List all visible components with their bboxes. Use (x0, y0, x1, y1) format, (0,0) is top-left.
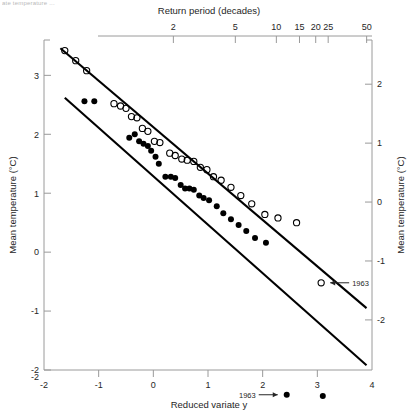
left-tick-label: 3 (34, 71, 39, 81)
data-point-open-circles (145, 128, 151, 134)
left-axis-origin-label: -2 (31, 372, 39, 382)
data-point-open-circles (293, 220, 299, 226)
top-axis-return-period: 251015202550 (98, 22, 372, 43)
partial-caption-fragment: ate temperature ... (2, 0, 152, 7)
annotation-label: 1963 (239, 391, 256, 400)
data-point-filled-circles (132, 131, 138, 137)
data-point-filled-circles (191, 187, 197, 193)
fit-line-open-circles (60, 48, 366, 308)
data-point-filled-circles (126, 135, 132, 141)
data-point-open-circles (318, 280, 324, 286)
bottom-tick-label: -1 (95, 380, 103, 390)
gumbel-extreme-value-plot: 251015202550 Return period (decades) 321… (0, 0, 418, 414)
left-tick-label: 1 (34, 189, 39, 199)
data-point-filled-circles (243, 228, 249, 234)
data-point-open-circles (262, 211, 268, 217)
left-axis: 3210-1-2-2 (31, 71, 51, 382)
left-axis-title: Mean temperature (°C) (7, 156, 18, 253)
bottom-tick-label: 4 (369, 380, 374, 390)
data-point-filled-circles (172, 175, 178, 181)
plot-frame (44, 40, 372, 370)
data-point-filled-circles (162, 174, 168, 180)
data-point-open-circles (111, 101, 117, 107)
top-tick-label: 5 (233, 22, 238, 32)
left-tick-label: 2 (34, 130, 39, 140)
right-tick-label: 0 (377, 197, 382, 207)
data-point-filled-circles (156, 161, 162, 167)
top-tick-label: 2 (171, 22, 176, 32)
data-point-filled-circles (228, 216, 234, 222)
fit-line-filled-circles (65, 98, 367, 366)
annotation-label: 1963 (352, 279, 369, 288)
data-markers-group (62, 48, 326, 399)
bottom-tick-label: 2 (260, 380, 265, 390)
figure-container: ate temperature ... 251015202550 Return … (0, 0, 418, 414)
right-axis: 210-1-2 (365, 79, 385, 325)
data-point-open-circles (238, 192, 244, 198)
data-point-filled-circles (81, 98, 87, 104)
data-point-filled-circles (201, 195, 207, 201)
right-axis-title: Mean temperature (°C) (395, 156, 406, 253)
data-point-filled-circles (220, 210, 226, 216)
data-point-open-circles (275, 215, 281, 221)
data-point-filled-circles (214, 203, 220, 209)
data-point-open-circles (218, 177, 224, 183)
annotations-group: 19631963 (239, 279, 369, 400)
bottom-axis: -2-101234 (40, 370, 375, 390)
data-point-filled-circles (252, 235, 258, 241)
data-point-filled-circles (91, 98, 97, 104)
top-tick-label: 50 (362, 22, 372, 32)
right-tick-label: -2 (377, 315, 385, 325)
data-point-filled-circles (236, 222, 242, 228)
data-point-open-circles (172, 152, 178, 158)
bottom-tick-label: -2 (40, 380, 48, 390)
fit-lines-group (60, 48, 366, 365)
data-point-filled-circles (148, 148, 154, 154)
data-point-filled-circles (284, 392, 290, 398)
left-tick-label: 0 (34, 247, 39, 257)
bottom-tick-label: 3 (315, 380, 320, 390)
data-point-open-circles (123, 105, 129, 111)
data-point-filled-circles (263, 240, 269, 246)
right-tick-label: 2 (377, 79, 382, 89)
top-tick-label: 15 (294, 22, 304, 32)
data-point-filled-circles (206, 197, 212, 203)
bottom-tick-label: 1 (205, 380, 210, 390)
annotation-arrow-head (273, 392, 278, 397)
top-tick-label: 25 (323, 22, 333, 32)
data-point-open-circles (249, 201, 255, 207)
bottom-tick-label: 0 (151, 380, 156, 390)
top-axis-title: Return period (decades) (158, 5, 260, 16)
data-point-open-circles (228, 184, 234, 190)
right-tick-label: -1 (377, 256, 385, 266)
data-point-filled-circles (320, 393, 326, 399)
bottom-axis-title: Reduced variate y (171, 399, 248, 410)
right-tick-label: 1 (377, 138, 382, 148)
left-tick-label: -1 (31, 306, 39, 316)
data-point-filled-circles (153, 154, 159, 160)
annotation-arrow-head (330, 280, 335, 285)
top-tick-label: 10 (271, 22, 281, 32)
top-tick-label: 20 (311, 22, 321, 32)
